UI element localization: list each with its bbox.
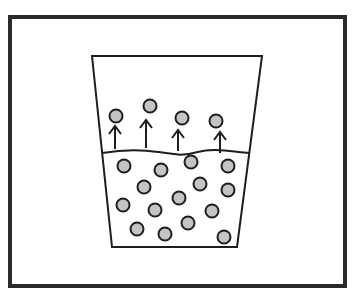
particle-icon <box>194 178 207 191</box>
particle-icon <box>182 217 195 230</box>
escaping-particles <box>109 100 226 154</box>
evaporation-diagram <box>0 0 363 305</box>
escaping-particle-icon <box>110 110 123 123</box>
liquid-particles <box>117 156 235 244</box>
particle-icon <box>117 199 130 212</box>
particle-icon <box>185 156 198 169</box>
particle-icon <box>131 223 144 236</box>
particle-icon <box>206 205 219 218</box>
particle-icon <box>173 192 186 205</box>
escaping-particle-icon <box>144 100 157 113</box>
particle-icon <box>149 204 162 217</box>
particle-icon <box>138 181 151 194</box>
particle-icon <box>222 160 235 173</box>
escaping-particle-icon <box>176 112 189 125</box>
particle-icon <box>218 231 231 244</box>
particle-icon <box>118 160 131 173</box>
particle-icon <box>222 184 235 197</box>
escaping-particle-icon <box>210 115 223 128</box>
particle-icon <box>155 164 168 177</box>
liquid-surface-line <box>102 150 249 155</box>
liquid-surface <box>102 150 249 155</box>
particle-icon <box>159 228 172 241</box>
